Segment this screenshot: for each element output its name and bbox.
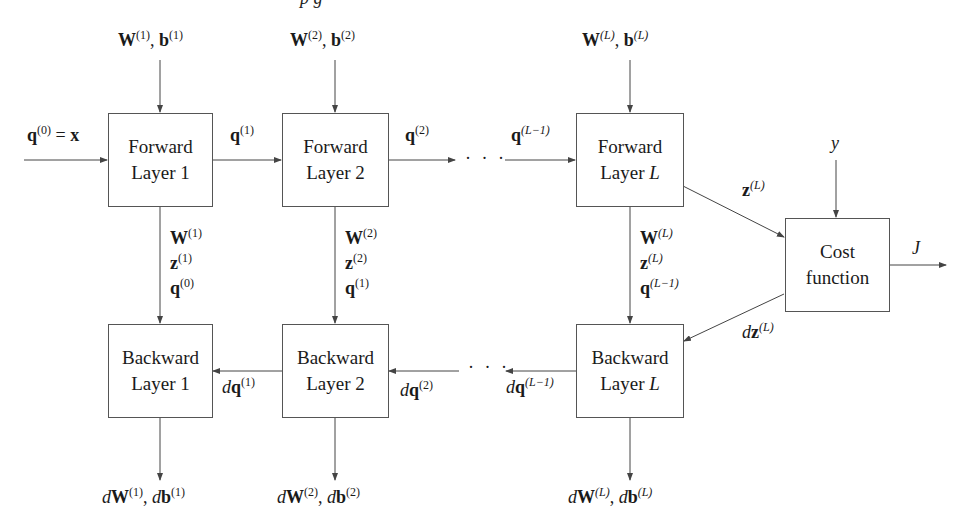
forward-layer-L-box: Forward Layer L: [576, 113, 684, 207]
forward-layer-2-box: Forward Layer 2: [282, 113, 389, 207]
grads-label-1: dW(1), db(1): [102, 487, 185, 507]
params-label-L: W(L), b(L): [582, 30, 648, 50]
forward-layer-1-box: Forward Layer 1: [108, 113, 213, 207]
params-label-1: W(1), b(1): [118, 30, 183, 50]
arrow-zL: [683, 186, 784, 237]
backward-layer-2-box: Backward Layer 2: [282, 324, 389, 418]
cache-stack-L: W(L) z(L) q(L−1): [640, 226, 679, 301]
cost-function-box: Cost function: [785, 218, 890, 312]
backward-layer-1-box: Backward Layer 1: [108, 324, 213, 418]
dzL-label: dz(L): [742, 322, 774, 342]
backward-ellipsis: · · ·: [468, 357, 510, 378]
grads-label-2: dW(2), db(2): [277, 487, 360, 507]
y-label: y: [831, 133, 839, 153]
forward-ellipsis: · · ·: [465, 148, 507, 169]
q1-label: q(1): [230, 125, 254, 145]
cache-stack-2: W(2) z(2) q(1): [345, 226, 377, 301]
zL-label: z(L): [742, 180, 765, 200]
q2-label: q(2): [405, 125, 429, 145]
J-label: J: [912, 238, 920, 258]
backward-layer-L-box: Backward Layer L: [576, 324, 684, 418]
dq2-label: dq(2): [400, 380, 433, 400]
cache-stack-1: W(1) z(1) q(0): [170, 226, 202, 301]
grads-label-L: dW(L), db(L): [568, 487, 652, 507]
input-label: q(0) = x: [27, 125, 79, 145]
qLm1-label: q(L−1): [511, 125, 550, 145]
dqLm1-label: dq(L−1): [506, 377, 554, 397]
params-label-2: W(2), b(2): [290, 30, 355, 50]
dq1-label: dq(1): [222, 377, 255, 397]
